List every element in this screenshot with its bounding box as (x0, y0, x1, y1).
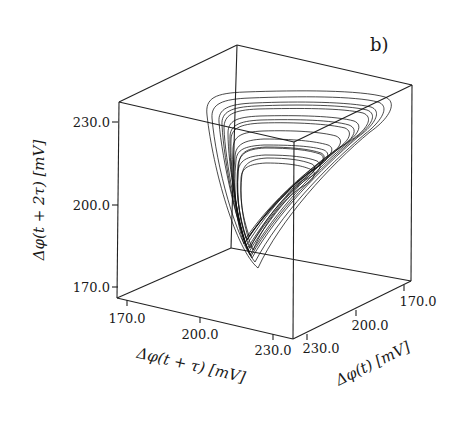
z-tick-230: 230.0 (73, 115, 110, 130)
x-tick-170: 170.0 (108, 311, 145, 326)
panel-label: b) (370, 34, 389, 55)
x-axis: 170.0 200.0 230.0 Δφ(t + τ) [mV] (108, 300, 291, 386)
cube-frame (117, 45, 412, 339)
y-tick-170: 170.0 (399, 294, 436, 309)
phase-space-plot: 230.0 200.0 170.0 Δφ(t + 2τ) [mV] 170.0 … (0, 0, 464, 422)
y-tick-230: 230.0 (302, 341, 339, 356)
y-axis-label: Δφ(t) [mV] (332, 338, 413, 390)
x-axis-label: Δφ(t + τ) [mV] (134, 344, 247, 387)
z-axis-label: Δφ(t + 2τ) [mV] (30, 140, 48, 262)
y-axis: 230.0 200.0 170.0 Δφ(t) [mV] (302, 285, 436, 390)
x-tick-200: 200.0 (181, 327, 218, 342)
z-tick-200: 200.0 (73, 198, 110, 213)
y-tick-200: 200.0 (351, 318, 388, 333)
z-axis: 230.0 200.0 170.0 Δφ(t + 2τ) [mV] (30, 115, 118, 295)
z-tick-170: 170.0 (73, 280, 110, 295)
x-tick-230: 230.0 (254, 343, 291, 358)
